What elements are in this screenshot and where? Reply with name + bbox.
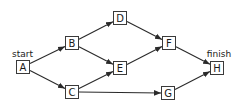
edges-group	[30, 22, 210, 93]
node-label: A	[20, 62, 27, 73]
edge-c-to-g-arrow	[79, 92, 161, 93]
node-label: F	[166, 38, 172, 49]
node-g: G	[162, 87, 175, 100]
edge-e-to-f-arrow	[127, 47, 162, 65]
node-label: H	[213, 63, 221, 74]
node-h: H	[211, 62, 224, 75]
node-label: B	[69, 38, 76, 49]
edge-b-to-d-arrow	[79, 22, 113, 40]
node-e: E	[114, 62, 127, 75]
edge-b-to-e-arrow	[79, 47, 113, 65]
node-f: F	[163, 37, 176, 50]
edge-d-to-f-arrow	[127, 22, 162, 40]
edge-a-to-b-arrow	[30, 46, 65, 63]
node-a: A	[17, 61, 30, 74]
edge-g-to-h-arrow	[175, 72, 210, 90]
edge-f-to-h-arrow	[176, 47, 210, 65]
finish-label: finish	[207, 49, 231, 59]
node-label: G	[164, 88, 172, 99]
start-label: start	[12, 49, 33, 59]
node-label: D	[116, 13, 124, 24]
node-label: C	[69, 87, 76, 98]
node-label: E	[117, 63, 123, 74]
edge-a-to-c-arrow	[30, 71, 65, 89]
node-c: C	[66, 86, 79, 99]
node-d: D	[114, 12, 127, 25]
edge-c-to-e-arrow	[79, 72, 113, 89]
node-b: B	[66, 37, 79, 50]
network-diagram: ABCDEFGH start finish	[0, 0, 243, 106]
